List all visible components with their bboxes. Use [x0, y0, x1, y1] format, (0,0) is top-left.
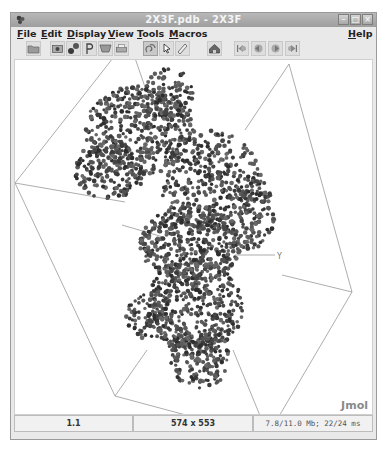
atom-cloud [74, 67, 277, 389]
molecule-scene[interactable]: Y [15, 60, 373, 415]
prev-frame-icon [252, 42, 265, 55]
console-icon [83, 42, 96, 55]
maximize-icon: □ [351, 15, 360, 24]
close-icon: × [363, 15, 372, 24]
camera-icon [51, 42, 64, 55]
unit-cell-wireframe [15, 60, 352, 415]
measure-button[interactable] [175, 41, 190, 56]
edit-script-button[interactable] [66, 41, 81, 56]
molecule-icon [67, 42, 80, 55]
pick-button[interactable] [159, 41, 174, 56]
toolbar [11, 40, 376, 59]
status-memory: 7.8/11.0 Mb; 22/24 ms [253, 415, 373, 432]
first-frame-button[interactable] [234, 41, 249, 56]
next-frame-button[interactable] [268, 41, 283, 56]
jmol-window: 2X3F.pdb - 2X3F – □ × File Edit Display … [10, 12, 377, 440]
menu-help[interactable]: Help [348, 28, 372, 39]
printer-icon [115, 42, 128, 55]
status-frame: 1.1 [14, 415, 133, 432]
menu-view-label: iew [115, 28, 133, 39]
menu-macros-label: acros [178, 28, 207, 39]
minimize-button[interactable]: – [338, 14, 349, 25]
last-frame-icon [286, 42, 299, 55]
rotate-button[interactable] [143, 41, 158, 56]
script-editor-button[interactable] [98, 41, 113, 56]
home-icon [208, 42, 221, 55]
y-axis: Y [235, 252, 282, 261]
menu-display-label: isplay [75, 28, 106, 39]
menu-edit[interactable]: Edit [41, 28, 62, 39]
folder-icon [27, 42, 40, 55]
export-image-button[interactable] [50, 41, 65, 56]
menu-tools-label: ools [142, 28, 164, 39]
menu-file[interactable]: File [17, 28, 36, 39]
maximize-button[interactable]: □ [350, 14, 361, 25]
axis-label-y: Y [276, 252, 282, 261]
jmol-logo: Jmol [341, 399, 368, 412]
next-frame-icon [269, 42, 282, 55]
status-bar: 1.1 574 x 553 7.8/11.0 Mb; 22/24 ms [14, 415, 373, 432]
previous-frame-button[interactable] [251, 41, 266, 56]
first-frame-icon [235, 42, 248, 55]
molecule-viewport[interactable]: Y Jmol [14, 59, 373, 415]
menu-edit-label: dit [48, 28, 63, 39]
open-file-button[interactable] [26, 41, 41, 56]
close-button[interactable]: × [362, 14, 373, 25]
menu-help-mnemonic: H [348, 28, 356, 39]
editor-icon [99, 42, 112, 55]
rotate-icon [144, 42, 157, 55]
title-bar[interactable]: 2X3F.pdb - 2X3F – □ × [11, 13, 376, 27]
pointer-icon [160, 42, 173, 55]
menu-bar: File Edit Display View Tools Macros Help [11, 27, 376, 40]
window-title: 2X3F.pdb - 2X3F [11, 13, 376, 27]
menu-view[interactable]: View [108, 28, 134, 39]
menu-display[interactable]: Display [67, 28, 106, 39]
console-button[interactable] [82, 41, 97, 56]
menu-help-label: elp [356, 28, 373, 39]
menu-macros[interactable]: Macros [169, 28, 207, 39]
last-frame-button[interactable] [285, 41, 300, 56]
menu-tools[interactable]: Tools [137, 28, 164, 39]
home-button[interactable] [207, 41, 222, 56]
minimize-icon: – [339, 15, 348, 24]
print-button[interactable] [114, 41, 129, 56]
menu-display-mnemonic: D [67, 28, 75, 39]
menu-file-label: ile [24, 28, 37, 39]
status-size: 574 x 553 [133, 415, 253, 432]
ruler-icon [176, 42, 189, 55]
